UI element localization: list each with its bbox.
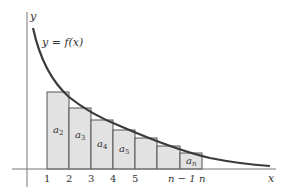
tick-4: 4 — [110, 173, 116, 184]
rectangles — [47, 92, 202, 169]
y-axis-label: y — [29, 10, 37, 23]
tick-n: n — [199, 173, 205, 184]
integral-test-diagram: y x y = f(x) 1 2 3 4 5 n − 1 n a2 a3 a4 … — [0, 0, 286, 193]
bar-6 — [135, 138, 157, 169]
bar-n-minus-1 — [157, 146, 180, 169]
tick-1: 1 — [44, 173, 50, 184]
tick-labels: 1 2 3 4 5 n − 1 n — [44, 173, 205, 184]
tick-n-minus-1: n − 1 — [168, 173, 196, 184]
tick-2: 2 — [66, 173, 72, 184]
tick-5: 5 — [132, 173, 138, 184]
tick-3: 3 — [88, 173, 94, 184]
x-axis-label: x — [268, 172, 275, 185]
function-label: y = f(x) — [41, 36, 83, 49]
